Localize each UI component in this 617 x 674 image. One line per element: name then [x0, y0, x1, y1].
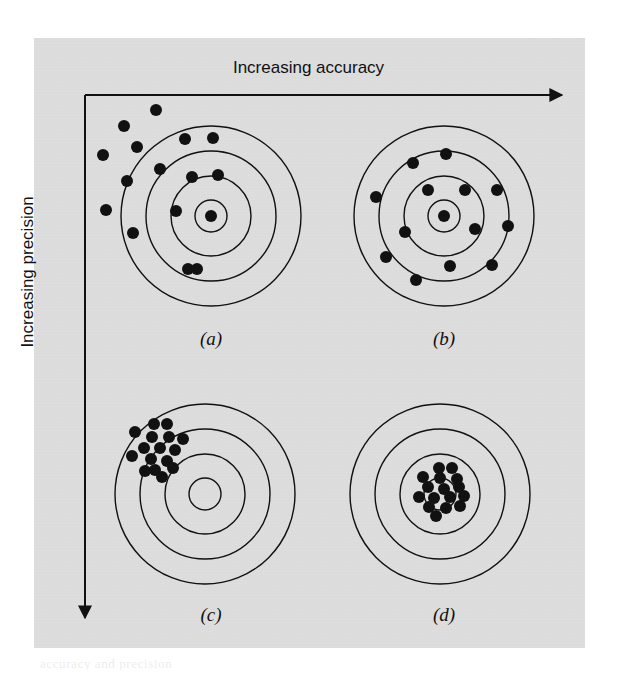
shot-dot	[145, 453, 157, 465]
shot-dot	[154, 442, 166, 454]
shot-dot	[97, 149, 109, 161]
shot-dot	[407, 157, 419, 169]
target-panel-d	[350, 404, 530, 584]
shot-dot	[370, 191, 382, 203]
target-panel-a	[97, 104, 301, 306]
shot-dot	[422, 481, 434, 493]
shot-dot	[399, 226, 411, 238]
shot-dot	[207, 132, 219, 144]
shot-dot	[186, 171, 198, 183]
shot-dot	[191, 263, 203, 275]
panel-caption-a: (a)	[181, 328, 241, 350]
shot-dot	[148, 418, 160, 430]
shot-dot	[167, 462, 179, 474]
shot-dot	[438, 210, 450, 222]
shot-dot	[179, 133, 191, 145]
target-panel-c	[115, 404, 295, 584]
shot-dot	[380, 251, 392, 263]
shot-dot	[118, 120, 130, 132]
shot-dot	[150, 104, 162, 116]
shot-dot	[131, 141, 143, 153]
target-diagram-svg	[0, 0, 617, 674]
shot-dot	[161, 418, 173, 430]
shot-dot	[430, 510, 442, 522]
shot-dot	[410, 274, 422, 286]
panel-caption-b: (b)	[414, 328, 474, 350]
shot-dot	[212, 169, 224, 181]
target-ring-4	[115, 404, 295, 584]
target-panel-b	[354, 126, 534, 306]
shot-dot	[156, 471, 168, 483]
shot-dot	[177, 433, 189, 445]
shot-dot	[434, 472, 446, 484]
target-ring-3	[375, 429, 505, 559]
shot-dot	[169, 444, 181, 456]
panel-caption-c: (c)	[181, 604, 241, 626]
shot-dot	[146, 431, 158, 443]
shot-dot	[491, 184, 503, 196]
shot-dot	[127, 227, 139, 239]
shot-dot	[444, 491, 456, 503]
x-axis-label: Increasing accuracy	[0, 58, 617, 78]
target-ring-4	[350, 404, 530, 584]
shot-dot	[422, 184, 434, 196]
shot-dot	[454, 500, 466, 512]
y-axis-label-wrapper: Increasing precision	[18, 187, 42, 357]
target-ring-1	[189, 478, 221, 510]
shot-dot	[163, 431, 175, 443]
shot-dot	[440, 148, 452, 160]
figure-root: Increasing accuracy Increasing precision…	[0, 0, 617, 674]
shot-dot	[100, 204, 112, 216]
shot-dot	[126, 450, 138, 462]
shot-dot	[138, 442, 150, 454]
y-axis-label: Increasing precision	[18, 187, 38, 357]
shot-dot	[205, 210, 217, 222]
shot-dot	[440, 502, 452, 514]
ghost-bleedthrough-text: accuracy and precision	[40, 656, 580, 670]
shot-dot	[446, 462, 458, 474]
shot-dot	[121, 175, 133, 187]
shot-dot	[129, 426, 141, 438]
shot-dot	[413, 491, 425, 503]
shot-dot	[459, 184, 471, 196]
shot-dot	[486, 259, 498, 271]
shot-dot	[170, 205, 182, 217]
shot-dot	[502, 220, 514, 232]
shot-dot	[469, 223, 481, 235]
shot-dot	[139, 465, 151, 477]
panel-caption-d: (d)	[414, 604, 474, 626]
shot-dot	[444, 260, 456, 272]
shot-dot	[154, 163, 166, 175]
